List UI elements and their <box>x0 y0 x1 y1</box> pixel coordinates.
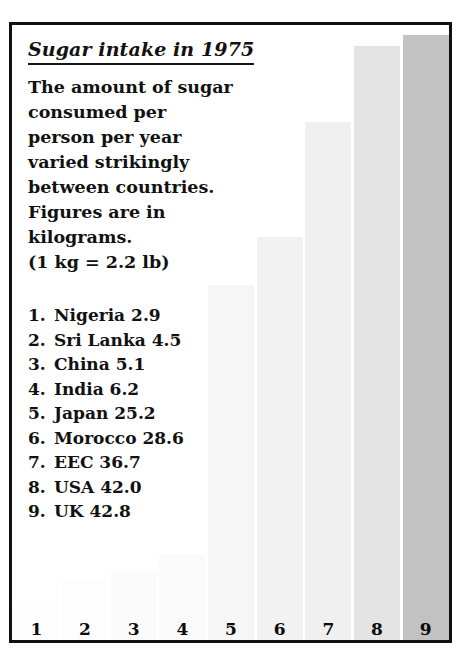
list-item: 9.UK 42.8 <box>28 499 243 524</box>
list-item-rank: 1. <box>28 303 54 328</box>
list-item-rank: 9. <box>28 499 54 524</box>
list-item-country: USA <box>54 477 94 497</box>
title-rule-spacer <box>28 65 243 75</box>
x-axis-tick-8: 8 <box>366 618 388 640</box>
text-panel: Sugar intake in 1975 The amount of sugar… <box>28 38 243 524</box>
list-item-value: 4.5 <box>146 330 182 350</box>
list-item-value: 36.7 <box>93 452 140 472</box>
list-item: 5.Japan 25.2 <box>28 401 243 426</box>
country-ranking-list: 1.Nigeria 2.92.Sri Lanka 4.53.China 5.14… <box>28 303 243 524</box>
page-title: Sugar intake in 1975 <box>28 38 254 65</box>
x-axis-tick-9: 9 <box>415 618 437 640</box>
list-item-country: EEC <box>54 452 93 472</box>
bar-7 <box>305 122 351 643</box>
x-axis-labels: 123456789 <box>9 618 452 643</box>
list-item-rank: 5. <box>28 401 54 426</box>
list-item-rank: 2. <box>28 328 54 353</box>
conversion-note: (1 kg = 2.2 lb) <box>28 250 243 275</box>
list-item-value: 25.2 <box>108 403 155 423</box>
list-item: 8.USA 42.0 <box>28 475 243 500</box>
list-item-country: Sri Lanka <box>54 330 146 350</box>
list-item-rank: 7. <box>28 450 54 475</box>
x-axis-tick-6: 6 <box>269 618 291 640</box>
bar-8 <box>354 46 400 643</box>
x-axis-tick-4: 4 <box>171 618 193 640</box>
x-axis-tick-3: 3 <box>123 618 145 640</box>
list-item: 6.Morocco 28.6 <box>28 426 243 451</box>
list-item-country: India <box>54 379 104 399</box>
list-item-rank: 3. <box>28 352 54 377</box>
list-item: 4.India 6.2 <box>28 377 243 402</box>
list-item: 1.Nigeria 2.9 <box>28 303 243 328</box>
list-item-country: UK <box>54 501 84 521</box>
list-item: 2.Sri Lanka 4.5 <box>28 328 243 353</box>
list-item-value: 42.8 <box>84 501 131 521</box>
bar-9 <box>403 35 449 643</box>
list-item-value: 28.6 <box>137 428 184 448</box>
list-item-country: Morocco <box>54 428 137 448</box>
list-item-value: 42.0 <box>94 477 141 497</box>
list-item-value: 2.9 <box>125 305 161 325</box>
x-axis-tick-7: 7 <box>317 618 339 640</box>
list-item: 3.China 5.1 <box>28 352 243 377</box>
x-axis-tick-5: 5 <box>220 618 242 640</box>
list-item-rank: 8. <box>28 475 54 500</box>
sugar-intake-infographic: Sugar intake in 1975 The amount of sugar… <box>0 0 461 665</box>
list-item-country: Nigeria <box>54 305 125 325</box>
description-text: The amount of sugar consumed per person … <box>28 75 233 250</box>
list-item: 7.EEC 36.7 <box>28 450 243 475</box>
list-item-rank: 6. <box>28 426 54 451</box>
list-item-value: 5.1 <box>110 354 146 374</box>
x-axis-tick-1: 1 <box>25 618 47 640</box>
list-item-rank: 4. <box>28 377 54 402</box>
list-item-value: 6.2 <box>104 379 140 399</box>
bar-6 <box>257 237 303 643</box>
list-item-country: China <box>54 354 110 374</box>
x-axis-tick-2: 2 <box>74 618 96 640</box>
list-item-country: Japan <box>54 403 108 423</box>
